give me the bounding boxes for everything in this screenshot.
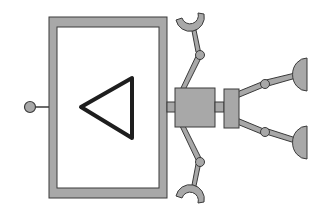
input-port [25,102,51,113]
lower-claw-icon [176,185,204,203]
upper-claw-arm [176,13,205,90]
central-joint-block [175,88,215,127]
upper-suction-cup-icon [293,58,307,91]
lower-claw-arm [176,126,205,203]
upper-suction-arm [237,58,307,98]
diagram-canvas [0,0,319,224]
wrist-block [224,89,239,128]
main-body-frame [49,17,167,198]
robot-diagram [0,0,319,224]
wrist-connector [215,102,224,112]
lower-suction-arm [237,118,307,159]
upper-claw-icon [176,13,204,31]
lower-suction-cup-icon [293,126,307,159]
